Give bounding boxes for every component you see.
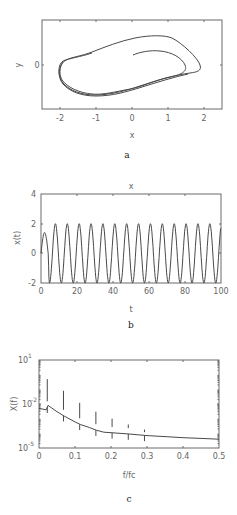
panel-b-time-series: x 0 20 40 60 80 100 4 2 0 -2 t x(t) b — [13, 182, 229, 330]
plot-c-ytick-top: 10 1 — [18, 352, 32, 365]
plot-a-xtick: 1 — [165, 114, 170, 123]
plot-c-xtick: 0.2 — [105, 452, 118, 461]
plot-b-xtick: 80 — [180, 287, 190, 296]
plot-b-xtick: 40 — [108, 287, 118, 296]
panel-label-a: a — [124, 150, 130, 160]
plot-a-ytick: 0 — [34, 61, 39, 70]
svg-text:10: 10 — [18, 444, 28, 453]
plot-b-ytick: 2 — [31, 220, 36, 229]
plot-a-ylabel: y — [14, 62, 23, 67]
panel-a-phase-portrait: -2 -1 0 1 2 0 x y a — [14, 20, 222, 160]
figure: -2 -1 0 1 2 0 x y a x 0 20 40 60 80 100 … — [0, 0, 237, 515]
plot-b-ytick: 4 — [31, 190, 36, 199]
plot-c-xlabel: f/fc — [123, 471, 136, 480]
svg-text:-2: -2 — [31, 396, 37, 403]
plot-c-spectrum-line — [39, 405, 219, 439]
plot-a-frame — [42, 20, 222, 109]
plot-b-signal — [41, 224, 221, 283]
plot-a-xtick: -2 — [56, 114, 64, 123]
plot-b-xtick: 60 — [144, 287, 154, 296]
plot-c-xtick: 0.5 — [213, 452, 226, 461]
plot-c-xtick: 0 — [36, 452, 41, 461]
plot-b-title: x — [129, 182, 134, 191]
plot-a-xtick: -1 — [92, 114, 100, 123]
plot-c-xtick: 0.3 — [141, 452, 154, 461]
plot-c-ytick-mid: 10 -2 — [22, 396, 37, 409]
plot-b-xtick: 0 — [38, 287, 43, 296]
plot-c-xtick: 0.1 — [69, 452, 82, 461]
plot-b-xtick: 100 — [213, 287, 228, 296]
svg-text:1: 1 — [28, 352, 32, 359]
panel-c-spectrum: 0 0.1 0.2 0.3 0.4 0.5 10 1 10 -2 10 -5 f… — [10, 352, 225, 504]
panel-label-b: b — [128, 320, 134, 330]
plot-b-ylabel: x(t) — [13, 231, 22, 245]
svg-text:-5: -5 — [28, 440, 34, 447]
plot-c-ylabel: X(f) — [10, 397, 19, 412]
plot-c-ytick-bot: 10 -5 — [18, 440, 34, 453]
plot-c-harmonic-peaks — [47, 379, 144, 441]
plot-a-x-ticks — [42, 20, 222, 109]
plot-b-xlabel: t — [129, 305, 132, 314]
plot-a-xlabel: x — [130, 131, 135, 140]
plot-c-frame — [39, 360, 219, 448]
plot-b-ytick: 0 — [31, 249, 36, 258]
plot-a-xtick: 2 — [201, 114, 206, 123]
plot-a-xtick: 0 — [129, 114, 134, 123]
plot-a-trajectory — [59, 36, 201, 95]
plot-b-ytick: -2 — [28, 279, 36, 288]
plot-b-xtick: 20 — [72, 287, 82, 296]
plot-c-minor-ticks — [39, 361, 219, 444]
plot-c-xtick: 0.4 — [177, 452, 190, 461]
plot-c-ticks — [39, 360, 219, 448]
panel-label-c: c — [126, 494, 131, 504]
svg-text:10: 10 — [18, 356, 28, 365]
